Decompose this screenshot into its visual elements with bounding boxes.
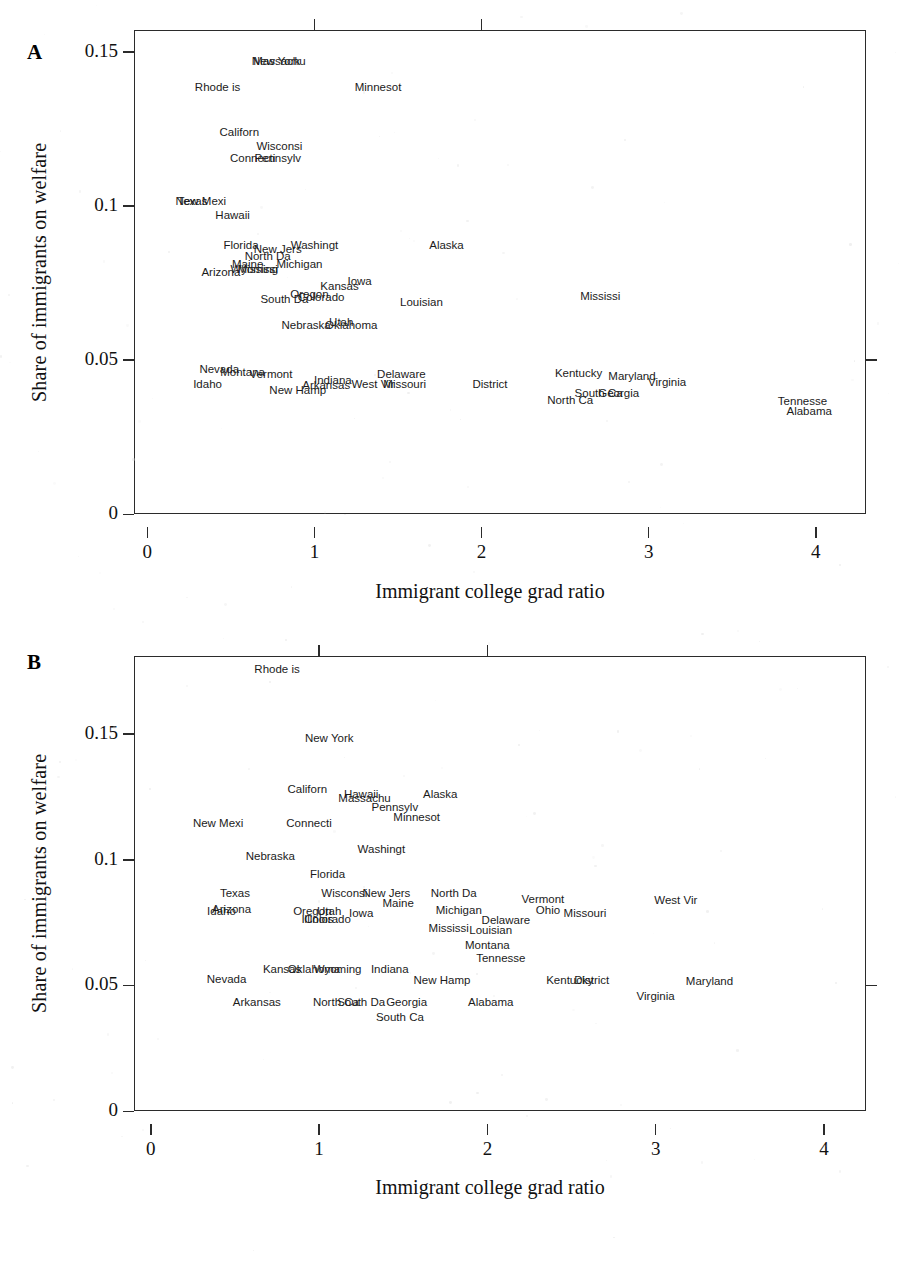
data-point-label: Alaska	[423, 789, 458, 801]
panel-a-x-tick-label: 4	[791, 541, 841, 563]
data-point-label: Vermont	[250, 370, 293, 382]
data-point-label: Washingt	[291, 240, 339, 252]
data-point-label: North Ca	[547, 396, 593, 408]
data-point-label: Ohio	[536, 905, 560, 917]
data-point-label: Alaska	[429, 240, 464, 252]
data-point-label: Hawaii	[215, 210, 250, 222]
panel-b-x-tick-label: 0	[126, 1138, 176, 1160]
data-point-label: Virginia	[648, 377, 686, 389]
panel-a-y-tick-label: 0.15	[48, 40, 118, 62]
panel-b-right-tick	[866, 985, 877, 987]
data-point-label: Louisian	[400, 297, 443, 309]
data-point-label: Maryland	[686, 977, 733, 989]
data-point-label: Wisconsi	[321, 889, 367, 901]
data-point-label: Mississi	[238, 265, 278, 277]
data-point-label: Rhode is	[254, 664, 299, 676]
data-point-label: Idaho	[207, 907, 236, 919]
data-point-label: Minnesot	[393, 812, 440, 824]
panel-b-y-tick	[123, 985, 134, 987]
data-point-label: Texas	[177, 196, 207, 208]
data-point-label: Washingt	[358, 844, 406, 856]
panel-a-x-tick-label: 3	[624, 541, 674, 563]
panel-a-y-tick	[123, 205, 134, 207]
data-point-label: Missouri	[564, 908, 607, 920]
panel-a-x-tick	[481, 527, 483, 538]
panel-a-letter: A	[27, 40, 42, 65]
data-point-label: Nebraska	[282, 320, 331, 332]
panel-a: A Share of immigrants on welfare Immigra…	[0, 0, 906, 630]
data-point-label: Delaware	[377, 369, 426, 381]
panel-b-x-axis-label: Immigrant college grad ratio	[330, 1176, 650, 1199]
panel-a-top-tick	[481, 19, 483, 30]
panel-b-x-tick	[655, 1124, 657, 1135]
data-point-label: Pennsylv	[254, 153, 301, 165]
panel-a-y-tick	[123, 51, 134, 53]
data-point-label: Maine	[383, 899, 414, 911]
data-point-label: Californ	[219, 128, 259, 140]
data-point-label: Arizona	[201, 267, 240, 279]
panel-a-x-axis-label: Immigrant college grad ratio	[330, 580, 650, 603]
data-point-label: Michigan	[436, 905, 482, 917]
data-point-label: Arkansas	[233, 997, 281, 1009]
panel-a-x-tick	[147, 527, 149, 538]
panel-a-x-tick	[648, 527, 650, 538]
panel-b-plot-area	[134, 656, 866, 1111]
data-point-label: Minnesot	[355, 82, 402, 94]
panel-a-y-tick	[123, 514, 134, 516]
data-point-label: Oklahoma	[325, 320, 377, 332]
panel-b-y-tick-label: 0	[48, 1099, 118, 1121]
panel-b-y-tick-label: 0.05	[48, 973, 118, 995]
panel-a-right-tick	[866, 359, 877, 361]
panel-b-x-tick-label: 2	[462, 1138, 512, 1160]
panel-b-y-tick-label: 0.1	[48, 848, 118, 870]
data-point-label: Wyoming	[314, 964, 362, 976]
panel-b-x-tick	[487, 1124, 489, 1135]
panel-b-y-tick	[123, 1111, 134, 1113]
data-point-label: Virginia	[637, 992, 675, 1004]
panel-a-y-tick-label: 0.1	[48, 194, 118, 216]
data-point-label: Iowa	[349, 908, 373, 920]
panel-b-x-tick	[318, 1124, 320, 1135]
data-point-label: Nevada	[207, 975, 247, 987]
panel-a-x-tick-label: 2	[457, 541, 507, 563]
data-point-label: Californ	[287, 784, 327, 796]
data-point-label: Kentucky	[555, 368, 602, 380]
panel-a-x-tick-label: 1	[289, 541, 339, 563]
data-point-label: Idaho	[193, 379, 222, 391]
data-point-label: Rhode is	[195, 82, 240, 94]
data-point-label: West Vir	[654, 895, 697, 907]
panel-b-letter: B	[27, 650, 41, 675]
panel-b-x-tick-label: 1	[294, 1138, 344, 1160]
data-point-label: Colorado	[304, 915, 351, 927]
data-point-label: South Da	[260, 294, 308, 306]
data-point-label: Missouri	[383, 379, 426, 391]
panel-a-x-tick	[815, 527, 817, 538]
panel-a-y-tick-label: 0.05	[48, 348, 118, 370]
data-point-label: Connecti	[286, 818, 331, 830]
panel-b-y-tick	[123, 733, 134, 735]
data-point-label: Montana	[465, 940, 510, 952]
panel-a-y-tick	[123, 359, 134, 361]
data-point-label: Georgia	[386, 997, 427, 1009]
data-point-label: Texas	[220, 889, 250, 901]
data-point-label: South Da	[337, 997, 385, 1009]
data-point-label: Florida	[310, 869, 345, 881]
panel-a-x-tick-label: 0	[122, 541, 172, 563]
data-point-label: District	[472, 379, 507, 391]
panel-b-top-tick	[487, 645, 489, 656]
panel-a-top-tick	[314, 19, 316, 30]
data-point-label: Tennesse	[476, 953, 525, 965]
data-point-label: Georgia	[598, 389, 639, 401]
data-point-label: Mississi	[429, 923, 469, 935]
data-point-label: North Da	[431, 889, 477, 901]
panel-a-y-tick-label: 0	[48, 502, 118, 524]
panel-b-x-tick-label: 3	[631, 1138, 681, 1160]
panel-b-y-tick	[123, 859, 134, 861]
data-point-label: Indiana	[371, 964, 409, 976]
data-point-label: New Mexi	[193, 818, 243, 830]
panel-b-y-tick-label: 0.15	[48, 722, 118, 744]
panel-b-x-tick-label: 4	[799, 1138, 849, 1160]
data-point-label: South Ca	[376, 1012, 424, 1024]
data-point-label: District	[574, 975, 609, 987]
data-point-label: New Hamp	[413, 975, 470, 987]
